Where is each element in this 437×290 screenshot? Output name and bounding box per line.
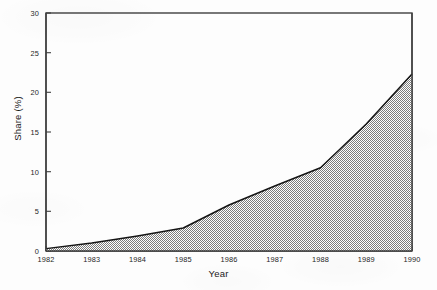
y-tick-label-10: 10 bbox=[21, 167, 39, 176]
x-axis-title: Year bbox=[0, 268, 437, 279]
x-tick-label-1983: 1983 bbox=[83, 255, 100, 264]
area-chart-plot bbox=[0, 0, 437, 290]
x-tick-label-1984: 1984 bbox=[129, 255, 146, 264]
y-tick-label-0: 0 bbox=[21, 247, 39, 256]
y-tick-label-5: 5 bbox=[21, 207, 39, 216]
x-tick-label-1988: 1988 bbox=[312, 255, 329, 264]
x-tick-label-1990: 1990 bbox=[404, 255, 421, 264]
x-tick-label-1986: 1986 bbox=[221, 255, 238, 264]
x-tick-label-1985: 1985 bbox=[175, 255, 192, 264]
y-axis-title: Share (%) bbox=[12, 69, 23, 169]
y-axis-ticks bbox=[46, 13, 51, 251]
x-tick-label-1982: 1982 bbox=[38, 255, 55, 264]
x-tick-label-1987: 1987 bbox=[266, 255, 283, 264]
y-tick-label-30: 30 bbox=[21, 9, 39, 18]
x-tick-label-1989: 1989 bbox=[358, 255, 375, 264]
y-tick-label-15: 15 bbox=[21, 128, 39, 137]
y-tick-label-20: 20 bbox=[21, 88, 39, 97]
area-fill bbox=[46, 74, 412, 251]
chart-container: 0 5 10 15 20 25 30 1982 1983 1984 1985 1… bbox=[0, 0, 437, 290]
y-tick-label-25: 25 bbox=[21, 48, 39, 57]
